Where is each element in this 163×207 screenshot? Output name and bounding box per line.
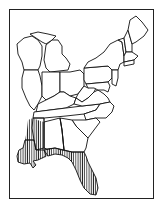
state-maine: [128, 16, 148, 44]
eastern-us-map: [0, 0, 163, 207]
state-pennsylvania: [84, 66, 112, 84]
state-new-jersey: [112, 70, 118, 86]
state-new-york: [84, 40, 124, 70]
state-wisconsin: [17, 36, 42, 70]
state-michigan: [44, 40, 70, 72]
